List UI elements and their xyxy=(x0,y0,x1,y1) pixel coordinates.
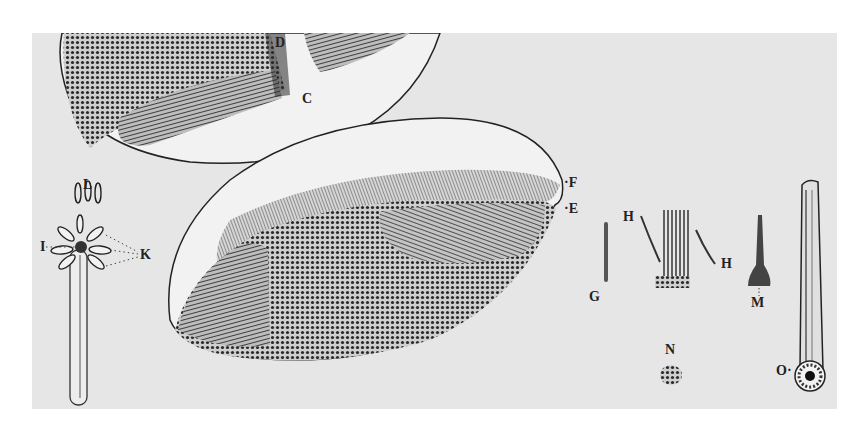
figure-m-funnel xyxy=(748,215,770,296)
label-o: O· xyxy=(776,364,792,378)
label-h-right: H xyxy=(721,257,732,271)
label-f: ·F xyxy=(564,176,577,190)
figure-ik-stalk xyxy=(46,215,138,405)
figure-h-fibres xyxy=(641,210,715,288)
label-k: K xyxy=(140,248,151,262)
label-g: G xyxy=(589,290,600,304)
label-d: D xyxy=(275,36,285,50)
label-l: L xyxy=(83,178,92,192)
label-i: I xyxy=(40,240,45,254)
label-c: C xyxy=(302,92,312,106)
label-m: M xyxy=(751,296,764,310)
engraving-illustration xyxy=(32,33,837,409)
label-n: N xyxy=(665,343,675,357)
engraving-plate: D C ·F ·E L I K G H H M N O· xyxy=(32,33,837,409)
figure-g-rod xyxy=(604,222,608,282)
figure-o-tube xyxy=(795,181,825,391)
label-h-left: H xyxy=(623,210,634,224)
figure-n-granule xyxy=(660,365,682,385)
label-e: ·E xyxy=(564,202,578,216)
